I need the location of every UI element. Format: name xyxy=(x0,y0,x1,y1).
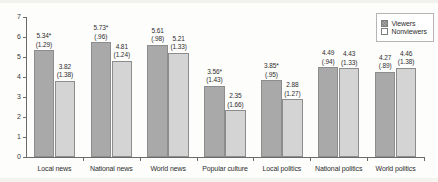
bar-sd-value: (.95) xyxy=(257,71,286,80)
bar-mean-value: 5.34* xyxy=(37,32,52,39)
nonviewers-swatch-icon xyxy=(381,28,388,35)
x-axis-tick xyxy=(424,157,425,161)
scan-edge-top xyxy=(0,0,438,3)
bar-sd-value: (1.33) xyxy=(335,59,364,68)
bar-mean-value: 2.35 xyxy=(229,92,241,99)
bar-sd-value: (1.29) xyxy=(30,41,59,50)
chart-figure: 01234567 5.34*(1.29)3.82(1.38)5.73*(.96)… xyxy=(0,0,438,182)
y-axis-tick xyxy=(23,137,27,138)
bar-nonviewers xyxy=(396,68,417,157)
bar-value-label: 2.88(1.27) xyxy=(278,81,307,98)
bar-value-label: 5.73*(.96) xyxy=(87,24,116,41)
bar-nonviewers xyxy=(112,61,133,157)
bar-nonviewers xyxy=(168,53,189,157)
y-axis-tick-label: 6 xyxy=(9,33,21,40)
bar-mean-value: 4.49 xyxy=(322,49,334,56)
bar-sd-value: (.96) xyxy=(87,33,116,42)
y-axis-tick-label: 3 xyxy=(9,93,21,100)
y-axis-tick xyxy=(23,37,27,38)
bar-value-label: 4.46(1.38) xyxy=(392,50,421,67)
x-axis-category-label: World politics xyxy=(367,165,424,172)
legend-item-viewers[interactable]: Viewers xyxy=(381,20,427,27)
bar-sd-value: (1.38) xyxy=(51,71,80,80)
bar-sd-value: (1.38) xyxy=(392,58,421,67)
y-axis-tick xyxy=(23,117,27,118)
y-axis-tick-label: 0 xyxy=(9,153,21,160)
bar-sd-value: (1.33) xyxy=(164,43,193,52)
x-axis-tick xyxy=(83,157,84,161)
x-axis-line xyxy=(26,157,424,158)
bar-mean-value: 3.82 xyxy=(59,63,71,70)
x-axis-category-label: National news xyxy=(83,165,140,172)
y-axis-tick xyxy=(23,17,27,18)
y-axis-tick xyxy=(23,77,27,78)
bar-nonviewers xyxy=(225,110,246,157)
y-axis-tick-label: 7 xyxy=(9,13,21,20)
bar-nonviewers xyxy=(339,68,360,157)
bar-value-label: 2.35(1.66) xyxy=(221,92,250,109)
bar-mean-value: 3.56* xyxy=(207,68,222,75)
bar-group: 5.73*(.96)4.81(1.24) xyxy=(91,17,133,157)
chart-legend: Viewers Nonviewers xyxy=(376,13,434,42)
x-axis-tick xyxy=(367,157,368,161)
plot-area: 01234567 5.34*(1.29)3.82(1.38)5.73*(.96)… xyxy=(26,17,424,158)
x-axis-category-label: Local politics xyxy=(253,165,310,172)
bar-viewers xyxy=(375,72,396,157)
scan-edge-bottom xyxy=(0,178,438,182)
y-axis-tick-label: 4 xyxy=(9,73,21,80)
bar-sd-value: (1.24) xyxy=(108,51,137,60)
bar-mean-value: 4.27 xyxy=(379,54,391,61)
bar-viewers xyxy=(147,45,168,157)
bar-value-label: 5.34*(1.29) xyxy=(30,32,59,49)
legend-item-label: Viewers xyxy=(391,20,415,27)
bar-mean-value: 4.81 xyxy=(116,43,128,50)
y-axis-tick-label: 5 xyxy=(9,53,21,60)
x-axis-category-label: Popular culture xyxy=(197,165,254,172)
bar-nonviewers xyxy=(282,99,303,157)
bar-value-label: 3.82(1.38) xyxy=(51,63,80,80)
x-axis-tick xyxy=(253,157,254,161)
bar-group: 5.34*(1.29)3.82(1.38) xyxy=(34,17,76,157)
bar-sd-value: (1.27) xyxy=(278,90,307,99)
bar-mean-value: 4.46 xyxy=(400,50,412,57)
x-axis-category-label: World news xyxy=(140,165,197,172)
bar-value-label: 5.21(1.33) xyxy=(164,35,193,52)
bar-mean-value: 5.61 xyxy=(152,27,164,34)
x-axis-category-label: Local news xyxy=(26,165,83,172)
bar-mean-value: 5.21 xyxy=(173,35,185,42)
bar-sd-value: (1.43) xyxy=(200,76,229,85)
x-axis-tick xyxy=(140,157,141,161)
bar-mean-value: 4.43 xyxy=(343,50,355,57)
bar-sd-value: (1.66) xyxy=(221,101,250,110)
y-axis-tick xyxy=(23,97,27,98)
viewers-swatch-icon xyxy=(381,20,388,27)
legend-item-label: Nonviewers xyxy=(391,28,427,35)
bar-value-label: 3.85*(.95) xyxy=(257,62,286,79)
y-axis-tick-label: 1 xyxy=(9,133,21,140)
x-axis-category-label: National politics xyxy=(310,165,367,172)
bar-value-label: 4.81(1.24) xyxy=(108,43,137,60)
bar-nonviewers xyxy=(55,81,76,157)
bar-group: 3.56*(1.43)2.35(1.66) xyxy=(204,17,246,157)
y-axis-tick xyxy=(23,57,27,58)
bar-viewers xyxy=(318,67,339,157)
bar-value-label: 3.56*(1.43) xyxy=(200,68,229,85)
legend-item-nonviewers[interactable]: Nonviewers xyxy=(381,28,427,35)
y-axis-tick-label: 2 xyxy=(9,113,21,120)
bar-group: 4.49(.94)4.43(1.33) xyxy=(318,17,360,157)
y-axis-tick xyxy=(23,157,27,158)
bar-mean-value: 3.85* xyxy=(264,62,279,69)
bar-value-label: 4.43(1.33) xyxy=(335,50,364,67)
bar-group: 3.85*(.95)2.88(1.27) xyxy=(261,17,303,157)
bar-mean-value: 5.73* xyxy=(93,24,108,31)
bar-group: 5.61(.98)5.21(1.33) xyxy=(147,17,189,157)
bar-mean-value: 2.88 xyxy=(286,81,298,88)
x-axis-tick xyxy=(310,157,311,161)
x-axis-tick xyxy=(197,157,198,161)
